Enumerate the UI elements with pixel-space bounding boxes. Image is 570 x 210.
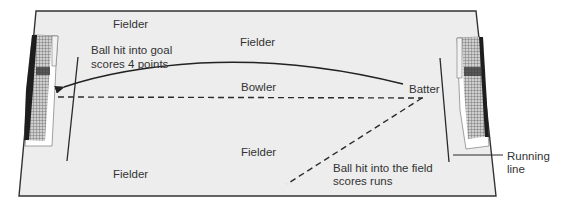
label-fielder-center: Fielder bbox=[241, 146, 276, 158]
label-fielder-top-left: Fielder bbox=[113, 18, 148, 30]
label-running-line-1: Running bbox=[507, 150, 550, 162]
label-bowler: Bowler bbox=[241, 81, 276, 93]
label-running-line-2: line bbox=[507, 163, 525, 175]
label-field-note-2: scores runs bbox=[333, 175, 393, 187]
label-fielder-bottom-left: Fielder bbox=[113, 168, 148, 180]
label-goal-note-2: scores 4 points bbox=[91, 58, 169, 70]
label-fielder-top-center: Fielder bbox=[240, 36, 275, 48]
diagram-stage: Fielder Fielder Ball hit into goal score… bbox=[0, 0, 570, 210]
left-goal-icon bbox=[24, 35, 58, 146]
field-diagram: Fielder Fielder Ball hit into goal score… bbox=[0, 0, 570, 210]
label-batter: Batter bbox=[409, 83, 440, 95]
label-goal-note-1: Ball hit into goal bbox=[91, 44, 172, 56]
pitch-dashed-line bbox=[58, 97, 423, 98]
label-field-note-1: Ball hit into the field bbox=[333, 162, 433, 174]
